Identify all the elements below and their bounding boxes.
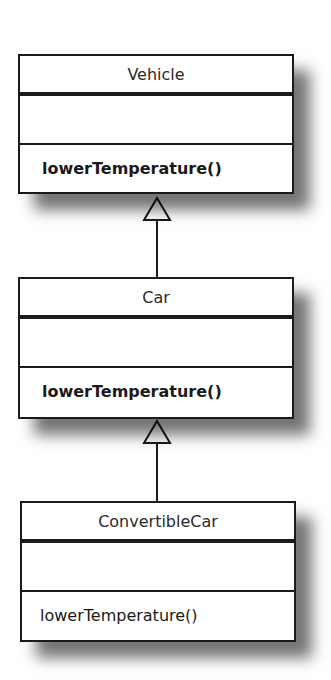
class-method: lowerTemperature()	[22, 592, 294, 638]
class-vehicle: Vehicle lowerTemperature()	[18, 54, 294, 194]
class-name: ConvertibleCar	[22, 503, 294, 543]
class-name: Car	[20, 279, 292, 319]
class-method: lowerTemperature()	[20, 145, 292, 191]
class-car: Car lowerTemperature()	[18, 277, 294, 419]
class-attributes	[20, 96, 292, 145]
class-convertible-car: ConvertibleCar lowerTemperature()	[20, 501, 296, 642]
class-name: Vehicle	[20, 56, 292, 96]
class-attributes	[20, 319, 292, 368]
class-method: lowerTemperature()	[20, 368, 292, 414]
class-attributes	[22, 543, 294, 592]
generalization-arrowhead-car	[144, 421, 170, 443]
generalization-arrowhead-vehicle	[144, 198, 170, 220]
